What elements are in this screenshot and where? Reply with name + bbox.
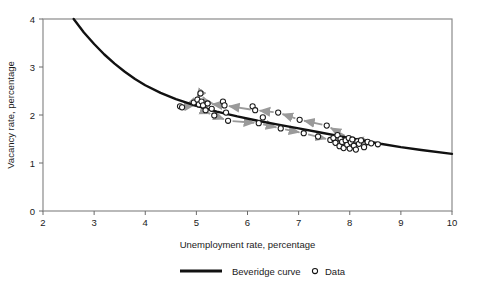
- data-point: [222, 103, 227, 108]
- y-tick-label: 3: [30, 62, 35, 73]
- y-tick-label: 4: [30, 14, 35, 25]
- data-point: [324, 123, 329, 128]
- data-point: [209, 106, 214, 111]
- data-point: [212, 113, 217, 118]
- data-point: [353, 147, 358, 152]
- data-point: [350, 137, 355, 142]
- beveridge-curve-chart: 234567891001234 Unemployment rate, perce…: [0, 0, 478, 288]
- x-tick-label: 7: [296, 217, 301, 228]
- data-point: [278, 126, 283, 131]
- x-tick-label: 10: [447, 217, 458, 228]
- legend-label-beveridge-curve: Beveridge curve: [232, 266, 301, 277]
- y-tick-label: 1: [30, 158, 35, 169]
- data-point: [179, 105, 184, 110]
- data-point: [205, 101, 210, 106]
- data-point: [297, 117, 302, 122]
- data-point: [301, 131, 306, 136]
- data-point: [276, 110, 281, 115]
- y-tick-label: 2: [30, 110, 35, 121]
- y-axis-title: Vacancy rate, percentage: [5, 61, 16, 169]
- data-point: [375, 142, 380, 147]
- legend-label-data: Data: [325, 266, 346, 277]
- data-point: [369, 141, 374, 146]
- x-tick-label: 4: [143, 217, 148, 228]
- data-point: [256, 121, 261, 126]
- chart-canvas: 234567891001234 Unemployment rate, perce…: [0, 0, 478, 288]
- data-point: [203, 108, 208, 113]
- data-point: [225, 118, 230, 123]
- x-tick-label: 6: [245, 217, 250, 228]
- legend-circle-swatch: [312, 268, 317, 273]
- x-tick-label: 5: [194, 217, 199, 228]
- data-point: [253, 108, 258, 113]
- x-tick-label: 8: [347, 217, 352, 228]
- data-point: [198, 91, 203, 96]
- data-point: [260, 115, 265, 120]
- data-point: [223, 110, 228, 115]
- x-tick-label: 3: [91, 217, 96, 228]
- x-tick-label: 2: [40, 217, 45, 228]
- x-axis-title: Unemployment rate, percentage: [180, 239, 316, 250]
- trajectory-arrow: [212, 104, 220, 105]
- x-tick-label: 9: [398, 217, 403, 228]
- data-point: [315, 134, 320, 139]
- y-tick-label: 0: [30, 206, 35, 217]
- data-point: [358, 138, 363, 143]
- data-point: [361, 145, 366, 150]
